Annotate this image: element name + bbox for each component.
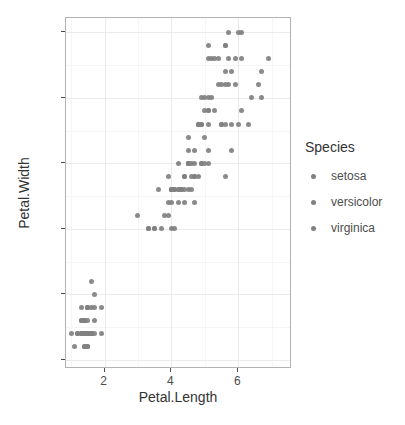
gridline-minor-horizontal — [66, 196, 290, 197]
data-point — [152, 226, 157, 231]
data-point — [246, 122, 251, 127]
data-point — [192, 161, 197, 166]
data-point — [92, 292, 97, 297]
legend: Species setosaversicolorvirginica — [305, 139, 401, 243]
data-point — [69, 331, 74, 336]
circle-marker-icon — [311, 226, 316, 231]
data-point — [182, 174, 187, 179]
data-point — [82, 318, 87, 323]
gridline-major-vertical — [105, 18, 106, 367]
x-tick-label: 6 — [222, 375, 252, 387]
legend-key-swatch — [305, 194, 322, 211]
data-point — [219, 122, 224, 127]
x-tick-mark — [104, 368, 105, 372]
gridline-minor-vertical — [272, 18, 273, 367]
gridline-minor-vertical — [138, 18, 139, 367]
y-tick-mark — [61, 228, 65, 229]
gridline-minor-horizontal — [66, 327, 290, 328]
data-point — [186, 148, 191, 153]
data-point — [223, 69, 228, 74]
data-point — [266, 56, 271, 61]
data-point — [259, 69, 264, 74]
data-point — [166, 174, 171, 179]
gridline-major-horizontal — [66, 32, 290, 33]
data-point — [186, 135, 191, 140]
x-axis-title: Petal.Length — [0, 389, 356, 405]
legend-title: Species — [305, 139, 401, 155]
data-point — [226, 30, 231, 35]
data-point — [223, 43, 228, 48]
data-point — [229, 148, 234, 153]
data-point — [239, 108, 244, 113]
data-point — [169, 200, 174, 205]
data-point — [92, 318, 97, 323]
circle-marker-icon — [311, 174, 316, 179]
data-point — [256, 82, 261, 87]
gridline-major-horizontal — [66, 98, 290, 99]
y-tick-mark — [61, 31, 65, 32]
data-point — [176, 200, 181, 205]
plot-panel — [65, 17, 291, 368]
gridline-major-horizontal — [66, 229, 290, 230]
data-point — [186, 161, 191, 166]
y-tick-mark — [61, 97, 65, 98]
gridline-minor-horizontal — [66, 131, 290, 132]
gridline-major-vertical — [171, 18, 172, 367]
data-point — [146, 226, 151, 231]
x-tick-mark — [170, 368, 171, 372]
legend-item-versicolor[interactable]: versicolor — [305, 191, 401, 213]
x-tick-mark — [237, 368, 238, 372]
y-tick-mark — [61, 293, 65, 294]
data-point — [226, 56, 231, 61]
data-point — [239, 30, 244, 35]
data-point — [189, 187, 194, 192]
circle-marker-icon — [311, 200, 316, 205]
y-tick-mark — [61, 162, 65, 163]
data-point — [239, 56, 244, 61]
data-point — [206, 43, 211, 48]
data-point — [229, 69, 234, 74]
x-tick-label: 4 — [155, 375, 185, 387]
data-point — [236, 122, 241, 127]
legend-key-swatch — [305, 220, 322, 237]
data-point — [135, 213, 140, 218]
legend-key-swatch — [305, 168, 322, 185]
data-point — [206, 122, 211, 127]
data-point — [259, 95, 264, 100]
y-axis-title: Petal.Width — [16, 93, 32, 293]
data-point — [202, 135, 207, 140]
legend-items: setosaversicolorvirginica — [305, 165, 401, 239]
data-point — [216, 56, 221, 61]
data-point — [189, 174, 194, 179]
data-point — [89, 279, 94, 284]
data-point — [233, 82, 238, 87]
data-point — [99, 331, 104, 336]
gridline-minor-horizontal — [66, 262, 290, 263]
data-point — [156, 187, 161, 192]
data-point — [196, 174, 201, 179]
data-point — [159, 226, 164, 231]
scatter-plot-figure: 0.00.51.01.52.02.5 246 Petal.Length Peta… — [0, 0, 405, 425]
y-tick-mark — [61, 359, 65, 360]
data-point — [99, 305, 104, 310]
gridline-major-horizontal — [66, 360, 290, 361]
data-point — [209, 95, 214, 100]
data-point — [192, 200, 197, 205]
data-point — [176, 161, 181, 166]
data-point — [206, 161, 211, 166]
data-point — [212, 108, 217, 113]
data-point — [233, 56, 238, 61]
data-point — [206, 148, 211, 153]
gridline-minor-vertical — [205, 18, 206, 367]
legend-item-virginica[interactable]: virginica — [305, 217, 401, 239]
gridline-minor-horizontal — [66, 65, 290, 66]
x-tick-label: 2 — [89, 375, 119, 387]
legend-item-label: versicolor — [331, 195, 382, 209]
data-point — [196, 122, 201, 127]
data-point — [192, 148, 197, 153]
gridline-major-horizontal — [66, 294, 290, 295]
legend-item-label: virginica — [331, 221, 375, 235]
data-point — [229, 122, 234, 127]
legend-item-setosa[interactable]: setosa — [305, 165, 401, 187]
data-point — [223, 174, 228, 179]
